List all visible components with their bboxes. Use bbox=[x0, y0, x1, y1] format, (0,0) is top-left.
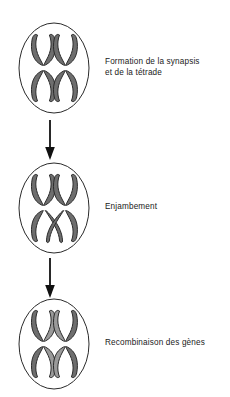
stage-recombinaison: Recombinaison des gènes bbox=[0, 296, 230, 396]
cell-synapsis bbox=[12, 18, 96, 118]
arrow-2 bbox=[40, 258, 60, 300]
meiosis-diagram: Formation de la synapsis et de la tétrad… bbox=[0, 0, 230, 397]
centromere bbox=[63, 66, 69, 70]
stage-label-synapsis: Formation de la synapsis et de la tétrad… bbox=[105, 56, 200, 78]
centromere bbox=[41, 206, 47, 210]
centromere bbox=[41, 342, 47, 346]
stage-enjambement: Enjambement bbox=[0, 160, 230, 260]
stage-synapsis: Formation de la synapsis et de la tétrad… bbox=[0, 0, 230, 130]
centromere bbox=[63, 206, 69, 210]
arrow-1 bbox=[40, 120, 60, 162]
stage-label-recombinaison: Recombinaison des gènes bbox=[105, 337, 205, 348]
stage-label-enjambement: Enjambement bbox=[105, 201, 157, 212]
cell-recombinaison bbox=[12, 296, 96, 392]
centromere bbox=[41, 66, 47, 70]
centromere bbox=[63, 342, 69, 346]
cell-enjambement bbox=[12, 160, 96, 256]
